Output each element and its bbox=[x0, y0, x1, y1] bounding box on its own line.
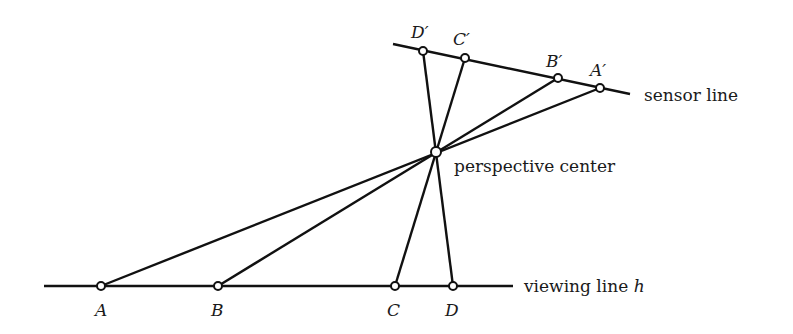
label-viewing-line: viewing line h bbox=[523, 276, 645, 296]
ray-b bbox=[218, 78, 558, 286]
label-b: B bbox=[210, 300, 224, 320]
viewing-line-var: h bbox=[634, 276, 645, 296]
label-perspective-center: perspective center bbox=[454, 156, 616, 176]
point-c bbox=[391, 282, 399, 290]
label-sensor-line: sensor line bbox=[644, 85, 738, 105]
label-a-prime: A′ bbox=[588, 60, 606, 80]
viewing-line-text: viewing line bbox=[523, 276, 634, 296]
point-c-prime bbox=[461, 54, 469, 62]
label-d-prime: D′ bbox=[410, 22, 429, 42]
point-b-prime bbox=[554, 74, 562, 82]
point-a bbox=[97, 282, 105, 290]
point-a-prime bbox=[596, 84, 604, 92]
label-b-prime: B′ bbox=[545, 51, 562, 71]
perspective-diagram: A B C D D′ C′ B′ A′ sensor line perspect… bbox=[0, 0, 793, 334]
point-d bbox=[449, 282, 457, 290]
label-a: A bbox=[93, 300, 107, 320]
label-c: C bbox=[387, 300, 400, 320]
perspective-center-point bbox=[431, 147, 441, 157]
point-b bbox=[214, 282, 222, 290]
ray-d bbox=[423, 51, 453, 286]
ray-a bbox=[101, 88, 600, 286]
label-d: D bbox=[444, 300, 459, 320]
point-d-prime bbox=[419, 47, 427, 55]
label-c-prime: C′ bbox=[453, 29, 470, 49]
